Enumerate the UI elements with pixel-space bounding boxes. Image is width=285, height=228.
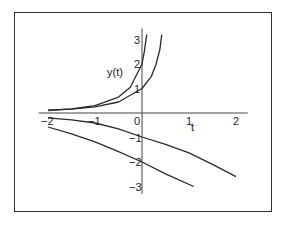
x-tick-label: −2 — [41, 115, 54, 127]
x-axis-label: t — [191, 121, 194, 133]
x-tick-label: −1 — [88, 115, 101, 127]
y-tick-label: −1 — [129, 132, 142, 144]
y-tick-label: −2 — [129, 156, 142, 168]
y-axis-label: y(t) — [107, 66, 123, 78]
y-tick-label: 2 — [134, 58, 140, 70]
x-tick-label: 0 — [134, 115, 140, 127]
y-tick-label: 1 — [134, 83, 140, 95]
x-tick-label: 2 — [233, 115, 239, 127]
plot-area: −2−1012−3−2−1123 y(t) t — [0, 0, 285, 228]
y-tick-label: 3 — [134, 34, 140, 46]
axes — [39, 28, 248, 193]
solution-curve — [48, 127, 194, 187]
y-tick-label: −3 — [129, 181, 142, 193]
solution-curve — [48, 35, 147, 111]
